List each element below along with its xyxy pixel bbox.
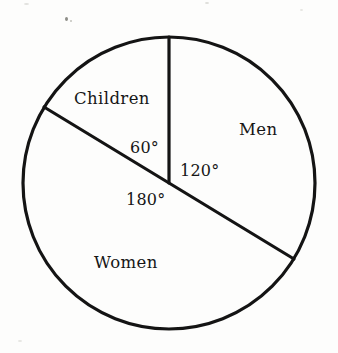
angle-label-120: 120°: [180, 163, 219, 179]
slice-label-children: Children: [74, 91, 150, 108]
slice-label-men: Men: [239, 122, 278, 139]
pie-chart-figure: Children Men Women 60° 120° 180°: [0, 0, 338, 353]
slice-label-women: Women: [94, 255, 158, 272]
angle-label-180: 180°: [126, 192, 165, 208]
angle-label-60: 60°: [130, 140, 159, 156]
pie-chart-svg: [0, 0, 338, 353]
